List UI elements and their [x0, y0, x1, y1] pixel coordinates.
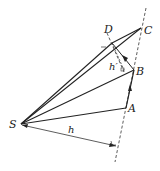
label-s: S	[9, 118, 17, 131]
label-h-prime: h′	[109, 61, 118, 72]
arrow-h-left-icon	[22, 124, 28, 128]
label-c: C	[144, 24, 153, 37]
label-h: h	[68, 124, 74, 135]
label-b: B	[135, 65, 144, 78]
geometry-diagram: S A B C D h h′	[0, 0, 160, 171]
label-d: D	[103, 23, 113, 36]
right-angle-mark-foot	[111, 141, 116, 145]
segment-dpoint-c	[112, 28, 141, 43]
label-a: A	[127, 102, 136, 115]
segment-sc	[21, 28, 141, 124]
